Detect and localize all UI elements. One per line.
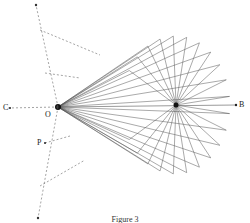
diagram-canvas [0,0,250,223]
label-p: P [37,139,41,147]
label-b: B [239,101,244,109]
label-o: O [45,111,51,119]
figure-caption: Figure 3 [0,215,250,223]
label-c: C [3,104,8,112]
